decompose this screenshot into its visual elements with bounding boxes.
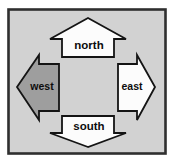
compass-widget: north east south west <box>0 0 175 162</box>
compass-graphic: north east south west <box>0 0 175 162</box>
